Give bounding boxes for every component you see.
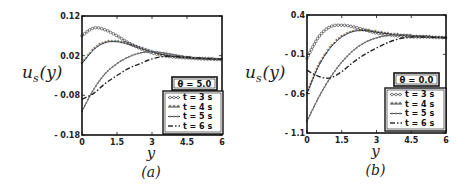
- dot-marker: [323, 86, 325, 88]
- circle-marker: [106, 30, 109, 33]
- star-marker: *: [399, 100, 402, 107]
- circle-marker: [173, 96, 176, 99]
- circle-marker: [91, 27, 94, 30]
- dot-marker: [309, 114, 311, 116]
- dot-marker: [376, 37, 378, 39]
- dot-marker: [109, 68, 111, 70]
- dot-marker: [379, 36, 381, 38]
- dot-marker: [407, 34, 409, 36]
- dot-marker: [342, 60, 344, 62]
- dot-marker: [358, 45, 360, 47]
- legend-entry: ***t = 4 s: [168, 103, 212, 112]
- dot-marker: [439, 36, 441, 38]
- circle-marker: [310, 48, 313, 51]
- circle-marker: [97, 27, 100, 30]
- series-t-4s: ****************************************…: [81, 38, 224, 67]
- x-tick-label: 0: [79, 138, 85, 147]
- dot-marker: [385, 35, 387, 37]
- dot-marker: [391, 34, 393, 36]
- legend-entry: ***t = 4 s: [390, 100, 434, 109]
- circle-marker: [109, 31, 112, 34]
- dot-marker: [310, 112, 312, 114]
- dot-marker: [150, 51, 152, 53]
- y-tick-label: 0.12: [60, 12, 80, 21]
- dot-marker: [173, 116, 175, 118]
- dot-marker: [98, 80, 100, 82]
- y-axis-label: us(y): [22, 62, 62, 85]
- y-tick-label: - 0.6: [285, 90, 306, 99]
- x-tick-label: 4.5: [404, 136, 419, 145]
- star-marker: *: [177, 103, 180, 110]
- dot-marker: [153, 51, 155, 53]
- dot-marker: [314, 103, 316, 105]
- dot-marker: [398, 34, 400, 36]
- circle-marker: [318, 35, 321, 38]
- star-marker: *: [395, 100, 398, 107]
- dot-marker: [361, 43, 363, 45]
- dot-marker: [399, 113, 401, 115]
- y-tick-label: 0.02: [60, 52, 80, 61]
- star-marker: *: [169, 103, 172, 110]
- circle-marker: [311, 46, 314, 49]
- x-tick-label: 4.5: [180, 138, 195, 147]
- dot-marker: [346, 55, 348, 57]
- panel-caption: (b): [366, 162, 386, 178]
- svg-text:t = 4 s: t = 4 s: [183, 103, 212, 112]
- dot-marker: [105, 72, 107, 74]
- svg-text:θ = 0.0: θ = 0.0: [400, 75, 434, 85]
- svg-text:t = 3 s: t = 3 s: [405, 90, 434, 99]
- dot-marker: [114, 64, 116, 66]
- x-tick-label: 0: [304, 136, 310, 145]
- circle-marker: [94, 26, 97, 29]
- panel-caption: (a): [141, 164, 160, 180]
- circle-marker: [309, 51, 312, 54]
- x-axis-label: y: [146, 144, 156, 162]
- dot-marker: [122, 59, 124, 61]
- dot-marker: [102, 75, 104, 77]
- dot-marker: [325, 83, 327, 85]
- circle-marker: [313, 43, 316, 46]
- svg-text:t = 6 s: t = 6 s: [183, 122, 212, 131]
- circle-marker: [315, 40, 318, 43]
- dot-marker: [165, 52, 167, 54]
- dot-marker: [367, 40, 369, 42]
- dot-marker: [95, 85, 97, 87]
- dot-marker: [125, 57, 127, 59]
- dot-marker: [356, 47, 358, 49]
- circle-marker: [322, 30, 325, 33]
- dot-marker: [330, 75, 332, 77]
- circle-marker: [337, 24, 340, 27]
- chart-panel-b: ****************************************…: [245, 11, 449, 178]
- svg-text:θ = 5.0: θ = 5.0: [178, 79, 212, 89]
- dot-marker: [373, 38, 375, 40]
- dot-marker: [391, 113, 393, 115]
- dot-marker: [143, 51, 145, 53]
- dot-marker: [175, 54, 177, 56]
- dot-marker: [93, 88, 95, 90]
- figure: ****************************************…: [0, 0, 467, 188]
- dot-marker: [159, 51, 161, 53]
- circle-marker: [112, 33, 115, 36]
- dot-marker: [84, 105, 86, 107]
- dot-marker: [404, 34, 406, 36]
- dot-marker: [395, 34, 397, 36]
- circle-marker: [103, 28, 106, 31]
- dot-marker: [382, 35, 384, 37]
- dot-marker: [327, 81, 329, 83]
- circle-marker: [320, 32, 323, 35]
- circle-marker: [391, 93, 394, 96]
- x-tick-label: 6: [443, 136, 449, 145]
- dot-marker: [353, 49, 355, 51]
- dot-marker: [119, 60, 121, 62]
- dot-marker: [348, 53, 350, 55]
- circle-marker: [340, 24, 343, 27]
- dot-marker: [162, 52, 164, 54]
- dot-marker: [146, 51, 148, 53]
- theta-annotation: θ = 0.0: [394, 73, 439, 86]
- dot-marker: [320, 92, 322, 94]
- circle-marker: [395, 93, 398, 96]
- y-tick-label: 0.4: [291, 11, 306, 20]
- dot-marker: [117, 62, 119, 64]
- dot-marker: [388, 34, 390, 36]
- dot-marker: [351, 51, 353, 53]
